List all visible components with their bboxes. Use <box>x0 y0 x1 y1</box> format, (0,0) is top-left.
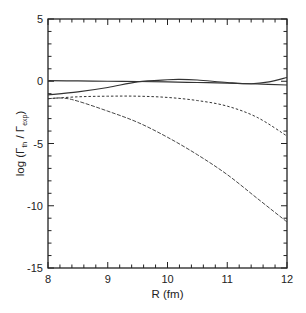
y-tick-label: -5 <box>33 138 43 150</box>
y-tick-label: -15 <box>27 262 43 274</box>
series-short-dash <box>48 96 287 136</box>
series-long-dash <box>48 98 287 222</box>
x-axis-label: R (fm) <box>152 288 184 300</box>
y-tick-labels: -15-10-505 <box>27 13 43 274</box>
x-tick-label: 12 <box>281 273 293 285</box>
plot-frame <box>48 19 287 268</box>
y-tick-label: 5 <box>37 13 43 25</box>
x-tick-label: 11 <box>222 273 233 285</box>
line-chart: 89101112 -15-10-505 R (fm) log (Γth / Γe… <box>0 0 306 313</box>
y-tick-label: -10 <box>27 200 43 212</box>
x-tick-label: 9 <box>105 273 111 285</box>
x-tick-labels: 89101112 <box>45 273 293 285</box>
x-tick-label: 8 <box>45 273 51 285</box>
x-tick-label: 10 <box>161 273 173 285</box>
axis-ticks <box>48 19 287 268</box>
y-tick-label: 0 <box>37 75 43 87</box>
series-solid-wavy <box>48 78 287 95</box>
data-series <box>48 78 287 222</box>
y-axis-label: log (Γth / Γexp) <box>14 111 29 177</box>
